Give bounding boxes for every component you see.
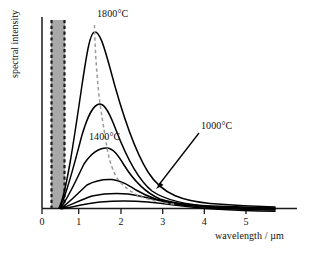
label-1000-arrow bbox=[156, 133, 199, 189]
xtick-label-5: 5 bbox=[238, 217, 254, 227]
curve-1800c bbox=[59, 32, 275, 208]
xtick-label-0: 0 bbox=[34, 217, 50, 227]
annotation-1000c: 1000°C bbox=[201, 121, 232, 131]
xtick-label-4: 4 bbox=[196, 217, 212, 227]
x-axis-title: wavelength / µm bbox=[215, 231, 284, 241]
blackbody-curves bbox=[59, 32, 275, 211]
visible-light-band bbox=[51, 20, 65, 208]
plot-canvas bbox=[0, 0, 310, 253]
annotation-1400c: 1400°C bbox=[89, 132, 120, 142]
xtick-label-1: 1 bbox=[71, 217, 87, 227]
y-axis-title: spectral intensity bbox=[9, 0, 20, 78]
curve-1400c bbox=[60, 148, 275, 209]
xtick-label-2: 2 bbox=[113, 217, 129, 227]
axes bbox=[42, 17, 297, 214]
blackbody-spectral-intensity-figure: 1800°C 1400°C 1000°C 0 1 2 3 4 5 spectra… bbox=[0, 0, 310, 253]
annotation-1800c: 1800°C bbox=[97, 9, 128, 19]
xtick-label-3: 3 bbox=[155, 217, 171, 227]
